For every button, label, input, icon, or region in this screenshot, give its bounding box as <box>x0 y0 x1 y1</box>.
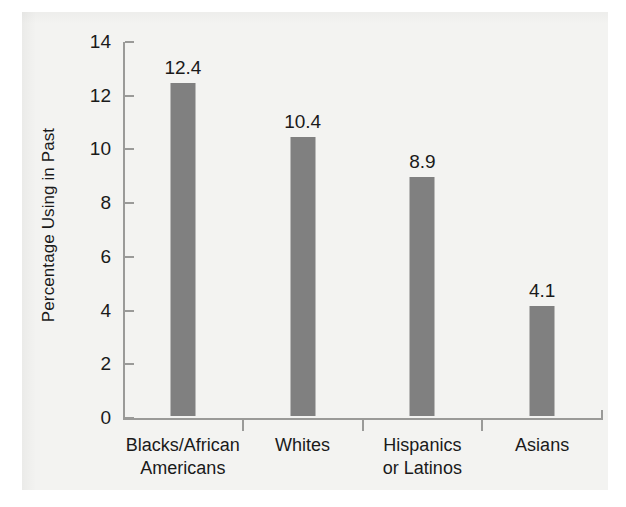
bar-value-label: 12.4 <box>138 57 228 79</box>
plot-area: 12.410.48.94.1 <box>123 42 602 418</box>
bar-value-label: 4.1 <box>497 280 587 302</box>
y-tick <box>125 363 134 365</box>
y-tick <box>125 256 134 258</box>
x-tick <box>242 420 244 431</box>
y-tick-label: 8 <box>51 192 111 214</box>
y-tick-label: 6 <box>51 246 111 268</box>
x-category-label: Asians <box>462 434 622 457</box>
x-tick <box>481 420 483 431</box>
bar <box>170 83 195 416</box>
y-tick <box>125 202 134 204</box>
y-tick-label: 10 <box>51 138 111 160</box>
y-tick-label: 4 <box>51 300 111 322</box>
y-tick-label: 0 <box>51 407 111 429</box>
bar-chart: Percentage Using in Past 12.410.48.94.1 … <box>0 0 626 507</box>
y-tick-label: 14 <box>51 31 111 53</box>
y-tick <box>125 95 134 97</box>
bar <box>530 306 555 416</box>
x-axis-right-cap <box>601 410 603 420</box>
bar-value-label: 10.4 <box>258 111 348 133</box>
y-tick <box>125 41 134 43</box>
x-tick <box>362 420 364 431</box>
y-tick-label: 2 <box>51 353 111 375</box>
y-tick-label: 12 <box>51 85 111 107</box>
y-tick <box>125 148 134 150</box>
bar-value-label: 8.9 <box>377 151 467 173</box>
bar <box>290 137 315 416</box>
y-tick <box>125 310 134 312</box>
y-axis-title: Percentage Using in Past <box>39 60 59 390</box>
bar <box>410 177 435 416</box>
y-tick <box>125 417 134 419</box>
